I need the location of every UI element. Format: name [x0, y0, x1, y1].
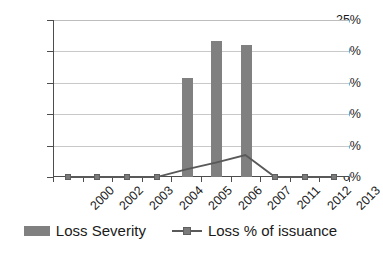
line-marker [94, 174, 100, 180]
x-axis-tick-label: 2006 [236, 184, 265, 213]
x-axis-tick-label: 2003 [147, 184, 176, 213]
x-axis-tick-label: 2002 [118, 184, 147, 213]
line-marker [65, 174, 71, 180]
line-marker-swatch-icon [172, 226, 202, 236]
x-axis-tick-label: 2005 [206, 184, 235, 213]
x-axis-tick [319, 177, 320, 182]
x-axis-tick [260, 177, 261, 182]
line-marker [272, 174, 278, 180]
x-axis-tick [112, 177, 113, 182]
gridline [54, 114, 349, 115]
x-axis-tick [231, 177, 232, 182]
gridline [54, 20, 349, 21]
x-axis-tick [83, 177, 84, 182]
x-axis-tick-label: 2004 [177, 184, 206, 213]
legend: Loss Severity Loss % of issuance [0, 222, 361, 239]
bar [182, 78, 193, 177]
line-marker [302, 174, 308, 180]
gridline [54, 146, 349, 147]
x-axis-tick [201, 177, 202, 182]
x-axis-tick-label: 2007 [266, 184, 295, 213]
line-marker [331, 174, 337, 180]
gridline [54, 83, 349, 84]
legend-label-loss-pct-of-issuance: Loss % of issuance [208, 222, 337, 239]
x-axis-tick [290, 177, 291, 182]
x-axis-tick [142, 177, 143, 182]
legend-label-loss-severity: Loss Severity [56, 222, 146, 239]
x-axis-tick-label: 2011 [295, 184, 323, 212]
bar [241, 45, 252, 177]
line-marker [154, 174, 160, 180]
x-axis-tick [53, 177, 54, 182]
legend-item-loss-severity: Loss Severity [24, 222, 146, 239]
bar-swatch-icon [24, 226, 50, 236]
x-axis-tick-label: 2012 [325, 184, 354, 213]
x-axis-tick-label: 2013 [354, 184, 383, 213]
x-axis-tick [349, 177, 350, 182]
gridline [54, 51, 349, 52]
x-axis-tick [171, 177, 172, 182]
legend-item-loss-pct-of-issuance: Loss % of issuance [172, 222, 337, 239]
plot-area [53, 20, 349, 177]
line-marker [124, 174, 130, 180]
x-axis-tick-label: 2000 [88, 184, 117, 213]
bar [211, 41, 222, 177]
